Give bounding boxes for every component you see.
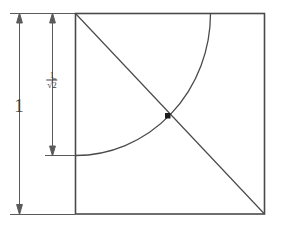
fraction-stack: 1 √2: [46, 71, 57, 90]
fraction-denominator: √2: [46, 81, 57, 90]
dimension-side-arrow-bottom: [17, 205, 23, 215]
intersection-point-marker: [165, 113, 171, 119]
side-length-label: 1: [9, 96, 29, 115]
dimension-radius-arrow-top: [50, 13, 56, 23]
figure-canvas: [0, 0, 281, 231]
dimension-radius-arrow-bottom: [50, 146, 56, 156]
radicand: 2: [52, 79, 57, 90]
dimension-side-arrow-top: [17, 13, 23, 23]
geometry-figure: 1 1 √2: [0, 0, 281, 231]
radius-fraction-label: 1 √2: [34, 64, 70, 96]
